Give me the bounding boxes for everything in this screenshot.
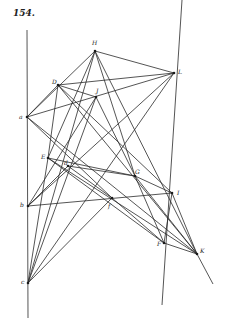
segment-d-G — [68, 166, 135, 176]
label-K: K — [199, 247, 205, 254]
segment-L-D — [58, 73, 174, 85]
K-extension — [197, 254, 213, 284]
point-c — [27, 282, 30, 285]
label-G: G — [135, 168, 140, 175]
point-G — [134, 175, 137, 178]
segment-L-a — [27, 73, 174, 117]
label-I: I — [176, 189, 180, 196]
segment-D-I — [58, 85, 172, 193]
segment-d-b — [28, 166, 68, 206]
segment-I-K — [172, 193, 197, 254]
point-E — [47, 157, 50, 160]
point-b — [27, 205, 30, 208]
label-d: d — [64, 159, 68, 166]
segment-G-I — [135, 176, 172, 193]
segment-J-G — [96, 97, 135, 176]
label-a: a — [19, 113, 23, 120]
segment-L-c — [28, 73, 174, 283]
point-F — [163, 242, 166, 245]
point-L — [173, 72, 176, 75]
point-a — [26, 116, 29, 119]
segment-D-K — [58, 85, 197, 254]
label-J: J — [94, 87, 99, 95]
label-F: F — [156, 240, 162, 247]
right-line — [162, 0, 182, 305]
label-f: f — [107, 202, 112, 210]
segment-D-J — [58, 85, 96, 97]
label-D: D — [51, 78, 57, 85]
label-L: L — [177, 68, 182, 75]
point-I — [171, 192, 174, 195]
segment-G-F — [135, 176, 164, 243]
segment-E-c — [28, 158, 48, 283]
point-f — [111, 197, 114, 200]
label-b: b — [20, 201, 24, 208]
geometric-diagram: HLDJaEdGIbfFKc — [0, 0, 226, 320]
left-line — [27, 30, 28, 318]
label-E: E — [40, 153, 46, 160]
segment-a-f — [27, 117, 112, 198]
point-J — [95, 96, 98, 99]
point-D — [57, 84, 60, 87]
segment-a-K — [27, 117, 197, 254]
point-K — [196, 253, 199, 256]
label-c: c — [21, 278, 25, 285]
segment-b-I — [28, 193, 172, 206]
label-H: H — [91, 39, 98, 46]
point-H — [94, 50, 97, 53]
segment-H-L — [95, 51, 174, 73]
